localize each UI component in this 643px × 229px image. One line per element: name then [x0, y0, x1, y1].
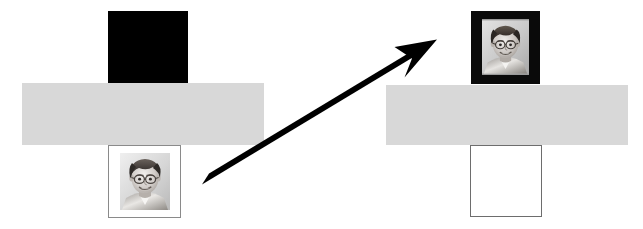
right-panel-bar [386, 85, 628, 145]
right-top-slot-portrait[interactable] [471, 11, 540, 84]
right-panel [0, 0, 643, 229]
right-bottom-slot-empty[interactable] [470, 145, 542, 217]
figure-canvas [0, 0, 643, 229]
child-portrait-photo [482, 19, 529, 75]
